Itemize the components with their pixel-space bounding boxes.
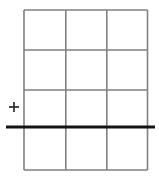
grid-diagram [0, 0, 159, 186]
diagram-canvas [0, 0, 159, 186]
